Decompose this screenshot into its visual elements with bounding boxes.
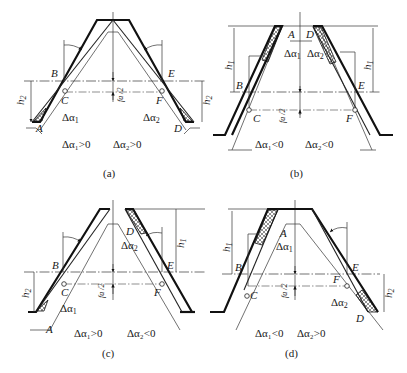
angle-arc-right [330, 228, 347, 233]
panel-caption: (b) [290, 167, 303, 180]
svg-text:fa/2: fa/2 [278, 109, 287, 123]
panel-caption: (a) [103, 167, 116, 180]
condition-right: Δα₂<0 [127, 327, 156, 339]
inner-flank-right [113, 20, 194, 122]
angle-arc-right [144, 45, 162, 50]
half-pitch-label: fa/2 [116, 88, 125, 102]
h-left-label: h1 [222, 61, 236, 71]
label-a: A [279, 227, 287, 239]
panel-b: A D B E C F Δα1 Δα2 h1 h1 fa/2 Δα₁<0 Δα₂… [213, 12, 393, 180]
hatch-right [180, 108, 192, 121]
svg-text:h1: h1 [220, 243, 234, 253]
condition-right: Δα₂>0 [113, 138, 142, 150]
panel-caption: (d) [285, 347, 298, 360]
angle-arc-left [64, 45, 82, 50]
label-b: B [52, 259, 59, 271]
delta-alpha-2-label: Δα2 [143, 111, 160, 125]
svg-text:h2: h2 [19, 289, 33, 299]
angle-arc-left [63, 237, 81, 242]
h-left-label: h2 [14, 96, 28, 106]
condition-left: Δα₁>0 [74, 327, 103, 339]
half-pitch-label: fa/2 [97, 284, 106, 298]
label-f: F [153, 286, 161, 298]
label-a: A [45, 323, 53, 335]
half-pitch-label: fa/2 [278, 109, 287, 123]
point-c-marker [245, 294, 250, 299]
svg-text:h2: h2 [14, 96, 28, 106]
label-a: A [287, 28, 295, 40]
point-f-marker [353, 108, 358, 113]
panel-c: B E C F A D Δα1 Δα2 h2 h1 fa/2 Δα₁>0 Δα₂… [19, 200, 205, 360]
hatch-left [255, 210, 278, 245]
delta-alpha-1-label: Δα1 [62, 111, 79, 125]
label-c: C [250, 289, 258, 301]
label-c: C [253, 112, 261, 124]
svg-text:fa/2: fa/2 [97, 284, 106, 298]
point-c-marker [63, 89, 68, 94]
label-d: D [173, 122, 182, 134]
panel-caption: (c) [102, 347, 115, 360]
delta-alpha-2-label: Δα2 [331, 296, 348, 310]
label-d: D [355, 312, 364, 324]
panel-d: A B E C F D Δα1 Δα2 h1 h2 fa/2 Δα₁<0 Δα₂… [210, 200, 396, 360]
svg-text:h1: h1 [361, 61, 375, 71]
svg-text:h1: h1 [222, 61, 236, 71]
h-right-label: h1 [361, 61, 375, 71]
label-e: E [351, 261, 359, 273]
ground-line-right [184, 128, 200, 134]
point-f-marker [345, 284, 350, 289]
condition-left: Δα₁<0 [255, 138, 284, 150]
inner-flank-left [32, 20, 113, 122]
point-c-marker [247, 108, 252, 113]
label-b: B [236, 79, 243, 91]
hatch-left [34, 108, 46, 121]
label-e: E [357, 79, 365, 91]
label-f: F [332, 273, 340, 285]
label-c: C [61, 286, 69, 298]
label-a: A [35, 122, 43, 134]
h-left-label: h2 [19, 289, 33, 299]
condition-right: Δα₂>0 [297, 327, 326, 339]
svg-text:fa/2: fa/2 [116, 88, 125, 102]
half-pitch-label: fa/2 [280, 284, 289, 298]
condition-left: Δα₁>0 [62, 138, 91, 150]
svg-text:fa/2: fa/2 [280, 284, 289, 298]
panel-a: B E C F A D Δα1 Δα2 h2 h2 fa/2 Δα₁>0 Δα₂… [14, 12, 214, 180]
delta-alpha-1-label: Δα1 [276, 240, 293, 254]
label-b: B [51, 67, 58, 79]
thread-profile-error-diagram: B E C F A D Δα1 Δα2 h2 h2 fa/2 Δα₁>0 Δα₂… [0, 0, 407, 373]
delta-alpha-2-label: Δα2 [307, 47, 324, 61]
delta-alpha-1-label: Δα1 [60, 302, 77, 316]
h-left-label: h1 [220, 243, 234, 253]
label-f: F [345, 112, 353, 124]
label-d: D [125, 225, 134, 237]
label-c: C [61, 94, 69, 106]
label-b: B [235, 261, 242, 273]
delta-alpha-2-label: Δα2 [121, 239, 138, 253]
delta-alpha-1-label: Δα1 [284, 47, 301, 61]
condition-left: Δα₁<0 [255, 327, 284, 339]
label-f: F [155, 94, 163, 106]
label-e: E [166, 259, 174, 271]
condition-right: Δα₂<0 [305, 138, 334, 150]
label-d: D [305, 28, 314, 40]
label-e: E [167, 67, 175, 79]
point-f-marker [160, 89, 165, 94]
